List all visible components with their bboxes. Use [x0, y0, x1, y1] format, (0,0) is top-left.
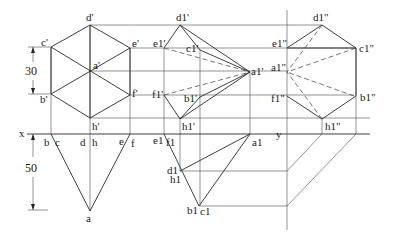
dim-50-label: 50 [25, 161, 37, 175]
front-rotated-labels: d1' e1' c1' a1' f1' b1' h1' [152, 11, 263, 132]
label-x-axis: x [19, 127, 25, 139]
label-b1-prime: b1' [184, 92, 197, 104]
drawing-svg: 30 50 d' c' e' a' b' f' h' x y b c d h e… [0, 0, 393, 235]
label-d: d [80, 136, 86, 148]
label-b1-double-prime: b1" [360, 91, 376, 103]
label-f: f [131, 137, 135, 149]
label-y-axis: y [276, 128, 282, 140]
label-e: e [119, 135, 124, 147]
label-b1: b1 [187, 204, 198, 216]
label-a-prime: a' [93, 59, 100, 71]
label-h: h [92, 136, 98, 148]
label-b-prime: b' [40, 93, 48, 105]
label-d-prime: d' [86, 11, 94, 23]
label-e-prime: e' [132, 37, 139, 49]
label-e1-double-prime: e1" [272, 37, 287, 49]
label-c-prime: c' [41, 36, 48, 48]
label-f1-prime: f1' [152, 88, 163, 100]
label-d1-double-prime: d1" [313, 11, 329, 23]
dimension-30: 30 [25, 47, 50, 94]
front-rotated-view [164, 25, 250, 119]
dim-30-label: 30 [25, 64, 37, 78]
front-view [51, 25, 130, 118]
label-f1-double-prime: f1" [271, 92, 285, 104]
label-b: b [44, 136, 50, 148]
label-f1: f1 [166, 136, 175, 148]
label-d1-prime: d1' [176, 11, 189, 23]
label-a1-prime: a1' [251, 65, 263, 77]
side-view [287, 25, 356, 119]
label-c1-double-prime: c1" [359, 42, 374, 54]
label-h1: h1 [170, 173, 181, 185]
label-f-prime: f' [132, 87, 138, 99]
projection-drawing: 30 50 d' c' e' a' b' f' h' x y b c d h e… [0, 0, 393, 235]
label-h-prime: h' [92, 120, 100, 132]
label-a: a [86, 212, 91, 224]
label-c1: c1 [200, 205, 210, 217]
top-rotated-labels: e1 f1 a1 d1 h1 b1 c1 [153, 134, 262, 217]
label-a1-double-prime: a1" [271, 61, 286, 73]
label-c1-prime: c1' [186, 42, 198, 54]
label-c: c [55, 136, 60, 148]
label-a1: a1 [252, 136, 262, 148]
label-e1: e1 [153, 134, 163, 146]
label-e1-prime: e1' [153, 37, 165, 49]
side-labels: d1" e1" c1" a1" f1" b1" h1" [271, 11, 376, 132]
label-h1-double-prime: h1" [325, 120, 341, 132]
label-h1-prime: h1' [182, 120, 195, 132]
